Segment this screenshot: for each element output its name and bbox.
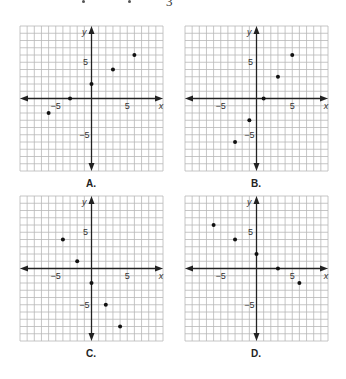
arrow-left-icon [185, 266, 193, 272]
header-dot-left [82, 0, 85, 3]
tick-y-5: 5 [83, 57, 88, 67]
x-axis-label: x [158, 101, 164, 111]
tick-y-5: 5 [83, 227, 88, 237]
tick-y-5: 5 [248, 57, 253, 67]
data-point [297, 281, 301, 285]
data-point [276, 267, 280, 271]
data-point [233, 140, 237, 144]
graph-d-label: D. [251, 348, 261, 359]
tick-x-neg5: −5 [216, 101, 226, 111]
data-point [233, 238, 237, 242]
data-point [90, 82, 94, 86]
data-point [262, 97, 266, 101]
tick-y-5: 5 [248, 227, 253, 237]
data-point [61, 238, 65, 242]
header-fragment: 3 [166, 0, 173, 10]
graph-b: yx−555−5 [185, 26, 328, 171]
tick-x-5: 5 [125, 101, 130, 111]
graph-c-label: C. [86, 348, 96, 359]
graph-a-svg: yx−555−5 [20, 26, 163, 171]
arrow-left-icon [20, 96, 28, 102]
y-axis-label: y [246, 197, 252, 207]
header-dot-right [128, 0, 131, 3]
tick-x-neg5: −5 [51, 101, 61, 111]
arrow-up-icon [254, 26, 260, 34]
tick-y-neg5: −5 [244, 300, 254, 310]
data-point [111, 68, 115, 72]
graph-b-svg: yx−555−5 [185, 26, 328, 171]
arrow-left-icon [185, 96, 193, 102]
data-point [104, 303, 108, 307]
tick-x-5: 5 [290, 101, 295, 111]
arrow-up-icon [254, 196, 260, 204]
y-axis-label: y [246, 27, 252, 37]
arrow-up-icon [89, 26, 95, 34]
graph-a: yx−555−5 [20, 26, 163, 171]
data-point [68, 97, 72, 101]
data-point [75, 259, 79, 263]
data-point [290, 53, 294, 57]
x-axis-label: x [158, 271, 164, 281]
arrow-down-icon [89, 333, 95, 341]
arrow-down-icon [254, 333, 260, 341]
data-point [132, 53, 136, 57]
graph-c-svg: yx−555−5 [20, 196, 163, 341]
graph-d-svg: yx−555−5 [185, 196, 328, 341]
arrow-down-icon [89, 163, 95, 171]
tick-x-5: 5 [290, 271, 295, 281]
arrow-left-icon [20, 266, 28, 272]
data-point [90, 281, 94, 285]
y-axis-label: y [81, 27, 87, 37]
arrow-down-icon [254, 163, 260, 171]
graph-d: yx−555−5 [185, 196, 328, 341]
tick-y-neg5: −5 [79, 130, 89, 140]
data-point [47, 111, 51, 115]
arrow-up-icon [89, 196, 95, 204]
data-point [276, 75, 280, 79]
tick-x-neg5: −5 [51, 271, 61, 281]
tick-x-5: 5 [125, 271, 130, 281]
graph-c: yx−555−5 [20, 196, 163, 341]
x-axis-label: x [323, 271, 329, 281]
tick-y-neg5: −5 [244, 130, 254, 140]
graph-b-label: B. [251, 178, 261, 189]
tick-x-neg5: −5 [216, 271, 226, 281]
graph-a-label: A. [86, 178, 96, 189]
y-axis-label: y [81, 197, 87, 207]
x-axis-label: x [323, 101, 329, 111]
data-point [247, 118, 251, 122]
tick-y-neg5: −5 [79, 300, 89, 310]
data-point [212, 223, 216, 227]
data-point [255, 252, 259, 256]
data-point [118, 325, 122, 329]
